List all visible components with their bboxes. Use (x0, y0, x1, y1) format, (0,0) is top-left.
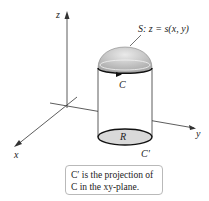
z-axis-arrow-icon (65, 11, 70, 19)
y-axis-label: y (196, 129, 200, 139)
surface-leader-line (130, 35, 141, 46)
region-label: R (120, 132, 126, 142)
x-axis (17, 97, 77, 145)
caption-line-1: C′ is the projection of (71, 169, 157, 181)
caption-box: C′ is the projection of C in the xy-plan… (65, 165, 163, 195)
z-axis-label: z (56, 10, 60, 20)
x-axis-label: x (14, 150, 18, 160)
curve-label: C (119, 80, 126, 90)
x-axis-arrow-icon (14, 140, 22, 147)
projection-label: C′ (141, 149, 150, 159)
caption-line-2: C in the xy-plane. (71, 181, 157, 193)
surface-label: S: z = s(x, y) (138, 24, 189, 34)
y-axis-arrow-icon (189, 125, 196, 130)
